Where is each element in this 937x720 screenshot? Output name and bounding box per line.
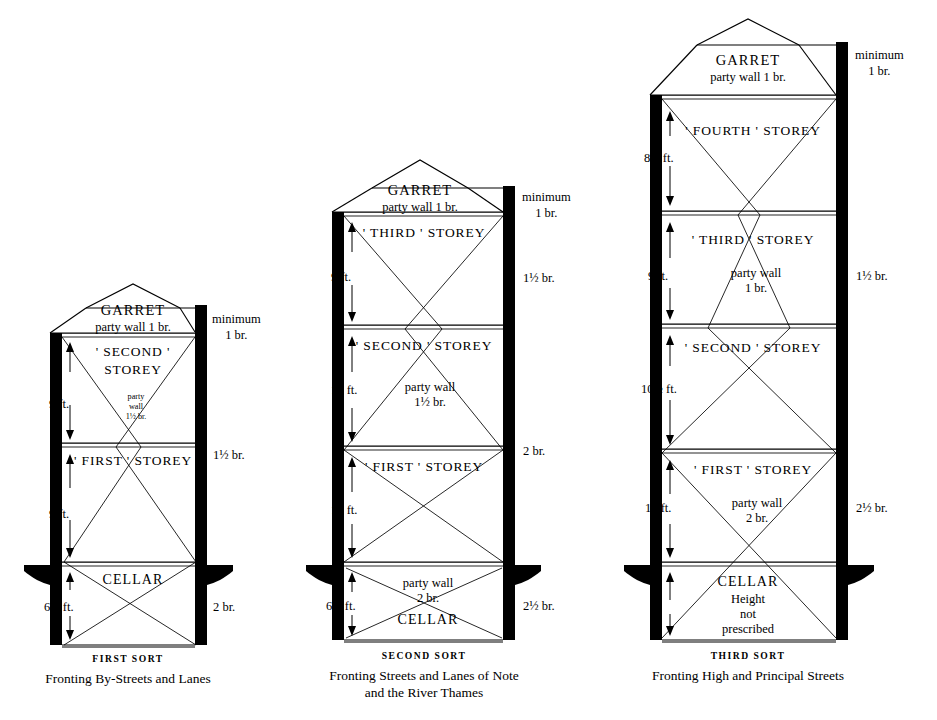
left-footing	[624, 565, 650, 585]
diagram-linework	[0, 0, 937, 720]
right-label-one-and-half-br: 1½ br.	[213, 448, 245, 463]
engraving-plate: GARRET party wall 1 br. ' SECOND ' STORE…	[0, 0, 937, 720]
cellar-label: CELLAR	[717, 574, 778, 591]
right-label-minimum-l1: minimum	[212, 312, 261, 326]
second-storey-label-2: STOREY	[104, 362, 162, 378]
right-label-two-br: 2 br.	[523, 444, 545, 459]
figure-caption-line2: and the River Thames	[365, 684, 484, 701]
party-wall-upper-l1: party wall	[731, 266, 781, 280]
party-wall-note-l2: wall	[129, 402, 143, 411]
second-storey-height: 9 ft.	[49, 397, 69, 412]
figure-caption-line1: Fronting Streets and Lanes of Note	[329, 667, 518, 684]
dimension-arrow-first-storey	[66, 454, 74, 558]
cellar-label: CELLAR	[397, 612, 458, 629]
garret-party-wall-note: party wall 1 br.	[95, 320, 171, 335]
fourth-storey-label: ' FOURTH ' STOREY	[685, 123, 821, 139]
sort-label: SECOND SORT	[382, 650, 467, 661]
garret-slope-left	[50, 308, 86, 333]
right-label-minimum-l2: 1 br.	[868, 64, 890, 78]
cellar-party-wall-note: party wall 2 br.	[403, 576, 453, 606]
right-label-minimum: minimum 1 br.	[212, 312, 261, 343]
right-label-minimum: minimum 1 br.	[522, 190, 571, 221]
right-label-minimum-l2: 1 br.	[225, 328, 247, 342]
garret-slope-right	[180, 308, 195, 332]
garret-label: GARRET	[716, 52, 781, 69]
dimension-arrow-second-storey	[66, 342, 74, 440]
sort-label: THIRD SORT	[711, 650, 786, 661]
cellar-height: 6½ ft.	[44, 600, 74, 615]
party-wall-note-l3: 1½ br.	[126, 412, 147, 421]
right-label-two-and-half-br: 2½ br.	[856, 501, 888, 516]
right-label-two-and-half-br: 2½ br.	[523, 599, 555, 614]
party-wall-note: party wall 1½ br.	[126, 392, 147, 422]
fourth-storey-height: 8½ ft.	[644, 151, 674, 166]
figure-caption: Fronting By-Streets and Lanes	[45, 670, 210, 687]
garret-slope-right	[799, 45, 836, 95]
party-wall-lower-l2: 2 br.	[746, 511, 768, 525]
left-footing	[306, 565, 332, 585]
right-footing	[207, 565, 233, 585]
left-party-wall	[650, 95, 662, 640]
first-storey-height: 10 ft.	[331, 503, 357, 518]
cellar-note-l2: not	[740, 607, 756, 621]
right-footing	[515, 565, 541, 585]
first-storey-height: 10 ft.	[645, 501, 671, 516]
figure-third-sort	[624, 19, 874, 642]
right-label-two-br: 2 br.	[213, 600, 235, 615]
garret-slope-left	[332, 188, 372, 212]
right-party-wall	[503, 186, 515, 640]
garret-slope-right	[468, 188, 503, 212]
party-wall-lower-l1: party wall	[732, 496, 782, 510]
second-storey-height: 10½ ft.	[641, 382, 677, 397]
cellar-note-l3: prescribed	[722, 622, 774, 636]
right-party-wall	[836, 42, 848, 640]
first-storey-label: ' FIRST ' STOREY	[365, 459, 483, 475]
second-storey-label: ' SECOND ' STOREY	[356, 338, 493, 354]
right-label-minimum-l2: 1 br.	[535, 206, 557, 220]
right-label-minimum: minimum 1 br.	[855, 48, 904, 79]
second-storey-height: 10 ft.	[331, 383, 357, 398]
roof-peak-line	[697, 19, 799, 45]
third-storey-label: ' THIRD ' STOREY	[363, 225, 486, 241]
left-footing	[24, 565, 50, 585]
party-wall-note-upper: party wall 1 br.	[731, 266, 781, 296]
first-storey-label: ' FIRST ' STOREY	[694, 462, 812, 478]
third-storey-height: 9 ft.	[331, 270, 351, 285]
cellar-note: Height not prescribed	[722, 592, 774, 637]
party-wall-note: party wall 1½ br.	[405, 380, 455, 410]
right-party-wall	[195, 305, 207, 645]
left-party-wall	[50, 333, 62, 645]
cellar-height: 6½ ft.	[326, 599, 356, 614]
first-storey-label: ' FIRST ' STOREY	[74, 453, 192, 469]
cellar-note-l1: Height	[731, 592, 765, 606]
diagonal-brace-a	[662, 99, 760, 215]
garret-party-wall-note: party wall 1 br.	[710, 70, 786, 85]
garret-label: GARRET	[388, 182, 453, 199]
first-storey-height: 9 ft.	[49, 507, 69, 522]
second-storey-label: ' SECOND '	[96, 344, 171, 360]
second-storey-label: ' SECOND ' STOREY	[685, 340, 822, 356]
party-wall-note-l1: party wall	[405, 380, 455, 394]
cellar-note-l2: 2 br.	[417, 591, 439, 605]
garret-label: GARRET	[101, 302, 166, 319]
right-label-minimum-l1: minimum	[522, 190, 571, 204]
diagonal-brace-b	[738, 99, 836, 215]
right-label-minimum-l1: minimum	[855, 48, 904, 62]
right-label-one-and-half-br: 1½ br.	[523, 271, 555, 286]
third-storey-label: ' THIRD ' STOREY	[692, 232, 815, 248]
right-label-one-and-half-br: 1½ br.	[856, 269, 888, 284]
party-wall-note-l1: party	[128, 392, 145, 401]
garret-slope-left	[650, 45, 697, 95]
dimension-arrow-cellar	[666, 572, 674, 636]
party-wall-note-lower: party wall 2 br.	[732, 496, 782, 526]
cellar-note-l1: party wall	[403, 576, 453, 590]
third-storey-height: 9 ft.	[648, 269, 668, 284]
sort-label: FIRST SORT	[92, 653, 163, 664]
cellar-label: CELLAR	[102, 572, 163, 589]
figure-caption: Fronting High and Principal Streets	[652, 667, 844, 684]
right-footing	[848, 565, 874, 585]
garret-party-wall-note: party wall 1 br.	[382, 200, 458, 215]
party-wall-note-l2: 1½ br.	[414, 395, 446, 409]
party-wall-upper-l2: 1 br.	[745, 281, 767, 295]
